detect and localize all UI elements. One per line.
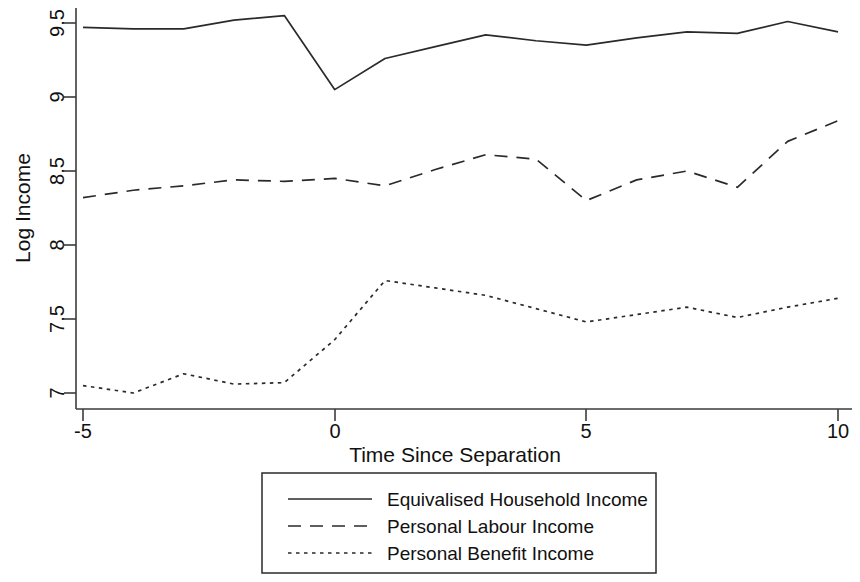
y-tick-label-7-5: 7.5 bbox=[46, 305, 68, 333]
income-line-chart: 9.5 9 8.5 8 7.5 7 Log Income -5 0 5 10 T… bbox=[0, 0, 860, 582]
x-axis-title: Time Since Separation bbox=[349, 443, 561, 466]
y-axis-title: Log Income bbox=[11, 153, 34, 263]
x-tick-label-0: 0 bbox=[329, 420, 340, 442]
legend-label-personal-labour-income: Personal Labour Income bbox=[387, 516, 594, 537]
x-tick-label-10: 10 bbox=[827, 420, 849, 442]
x-tick-label-minus5: -5 bbox=[74, 420, 92, 442]
legend-label-equivalised-household-income: Equivalised Household Income bbox=[387, 489, 648, 510]
legend-label-personal-benefit-income: Personal Benefit Income bbox=[387, 543, 594, 564]
y-tick-label-9-5: 9.5 bbox=[46, 9, 68, 37]
y-tick-label-8: 8 bbox=[46, 239, 68, 250]
y-tick-label-7: 7 bbox=[46, 387, 68, 398]
legend: Equivalised Household Income Personal La… bbox=[262, 473, 656, 573]
y-tick-label-9: 9 bbox=[46, 91, 68, 102]
y-tick-label-8-5: 8.5 bbox=[46, 157, 68, 185]
x-tick-label-5: 5 bbox=[580, 420, 591, 442]
